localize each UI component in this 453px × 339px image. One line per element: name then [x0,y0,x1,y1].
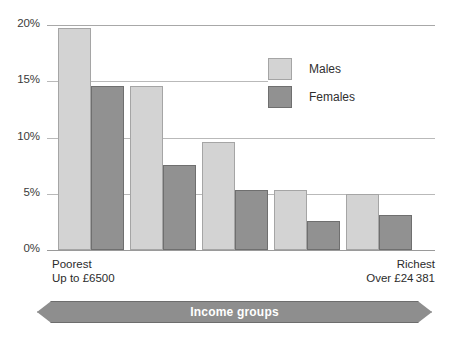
caption-richest-line2: Over £24 381 [366,272,435,286]
bar-males-2 [130,86,163,250]
bar-females-2 [163,165,196,251]
caption-poorest-line1: Poorest [52,258,115,272]
bar-groups [47,25,435,250]
caption-richest-line1: Richest [366,258,435,272]
category-caption-poorest: Poorest Up to £6500 [52,258,115,285]
plot-area [47,25,435,250]
legend-label-females: Females [309,90,355,104]
bar-males-3 [202,142,235,250]
x-axis-baseline [47,250,435,251]
bar-females-4 [307,221,340,250]
bar-females-5 [379,215,412,250]
legend-item-females: Females [268,83,355,111]
legend-label-males: Males [309,62,341,76]
y-axis: 20% 15% 10% 5% 0% [0,0,44,339]
legend-item-males: Males [268,55,355,83]
y-axis-tick-label-20: 20% [17,18,40,30]
y-axis-tick-label-5: 5% [24,187,40,199]
bar-females-3 [235,190,268,250]
bar-males-5 [346,194,379,250]
category-caption-richest: Richest Over £24 381 [366,258,435,285]
caption-poorest-line2: Up to £6500 [52,272,115,286]
bar-females-1 [91,86,124,250]
income-groups-banner: Income groups [37,301,432,323]
bar-males-1 [58,28,91,250]
banner-label: Income groups [37,301,432,323]
dark-gray-swatch-icon [268,86,292,108]
legend: Males Females [268,55,355,111]
chart-screenshot: 20% 15% 10% 5% 0% Males Females Poorest … [0,0,453,339]
y-axis-tick-label-0: 0% [24,243,40,255]
bar-males-4 [274,190,307,250]
light-gray-swatch-icon [268,58,292,80]
y-axis-tick-label-10: 10% [17,131,40,143]
y-axis-tick-label-15: 15% [17,74,40,86]
